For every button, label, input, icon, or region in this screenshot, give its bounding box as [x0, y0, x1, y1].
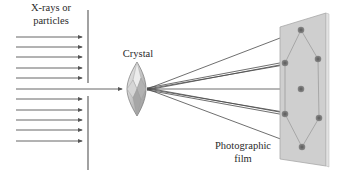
film-label-line1: Photographic	[215, 140, 271, 151]
crystal-label: Crystal	[123, 48, 153, 59]
photographic-film	[280, 13, 329, 167]
crystal-icon	[127, 62, 146, 116]
source-label-line2: particles	[33, 15, 69, 26]
diffraction-diagram: X-rays or particles Crystal	[0, 0, 343, 181]
source-label-line1: X-rays or	[31, 2, 71, 13]
film-label-line2: film	[234, 153, 252, 164]
